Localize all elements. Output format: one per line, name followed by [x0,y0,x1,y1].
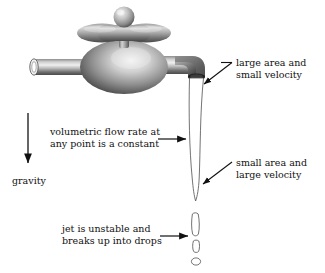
label-flow-rate-line1: volumetric flow rate at [50,126,160,138]
label-flow-rate-line2: any point is a constant [50,138,160,150]
leader-small-area-arrow [203,162,232,184]
label-small-area-line1: small area and [236,157,307,169]
leader-large-area-arrow [204,63,232,85]
label-large-area-line1: large area and [236,57,306,69]
label-small-area: small area and large velocity [236,157,307,181]
water-drop-round [191,258,200,265]
label-jet-breakup-line1: jet is unstable and [62,223,162,235]
faucet-graphic [30,7,205,95]
label-flow-rate: volumetric flow rate at any point is a c… [50,126,160,150]
water-stream [189,78,203,201]
label-jet-breakup-line2: breaks up into drops [62,235,162,247]
label-large-area: large area and small velocity [236,57,306,81]
faucet-body [80,40,168,94]
diagram-graphics [0,0,325,273]
water-drop-elongated [192,213,200,236]
label-small-area-line2: large velocity [236,169,307,181]
water-jet-graphic [189,78,203,265]
label-gravity: gravity [12,175,46,187]
faucet-knob [114,7,135,28]
water-drop-small [193,240,200,252]
label-large-area-line2: small velocity [236,69,306,81]
figure-canvas: large area and small velocity small area… [0,0,325,273]
label-jet-breakup: jet is unstable and breaks up into drops [62,223,162,247]
